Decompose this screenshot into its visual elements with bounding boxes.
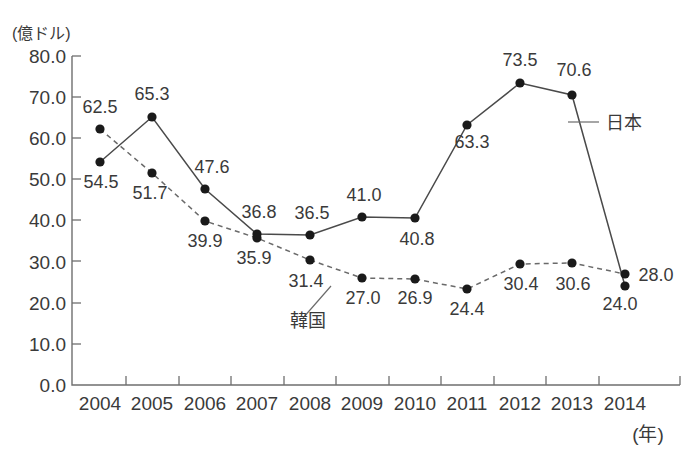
japan-label-2011: 63.3 xyxy=(454,132,489,152)
x-tick-2012: 2012 xyxy=(499,393,541,414)
x-axis-tick-labels: 2004 2005 2006 2007 2008 2009 2010 2011 … xyxy=(79,393,647,414)
chart-canvas: (億ドル) 80.0 70.0 60.0 50.0 40.0 30.0 20.0… xyxy=(0,0,692,455)
japan-label-2006: 47.6 xyxy=(194,157,229,177)
line-chart: (億ドル) 80.0 70.0 60.0 50.0 40.0 30.0 20.0… xyxy=(0,0,692,455)
x-axis-ticks xyxy=(126,376,680,385)
japan-label-2009: 41.0 xyxy=(346,185,381,205)
x-tick-2005: 2005 xyxy=(131,393,173,414)
x-tick-2013: 2013 xyxy=(551,393,593,414)
y-tick-10: 10.0 xyxy=(29,334,66,355)
y-axis-ticks xyxy=(72,56,81,344)
japan-label-2012: 73.5 xyxy=(502,50,537,70)
japan-label-2013: 70.6 xyxy=(556,60,591,80)
x-tick-2004: 2004 xyxy=(79,393,122,414)
japan-series-annotation: 日本 xyxy=(606,113,642,133)
y-axis-unit-label: (億ドル) xyxy=(12,25,71,42)
x-tick-2009: 2009 xyxy=(341,393,383,414)
x-tick-2007: 2007 xyxy=(236,393,278,414)
japan-label-2007: 36.8 xyxy=(241,202,276,222)
korea-label-2009: 27.0 xyxy=(345,288,380,308)
x-axis-unit-label: (年) xyxy=(632,424,664,445)
y-tick-30: 30.0 xyxy=(29,252,66,273)
korea-label-2008: 31.4 xyxy=(288,271,323,291)
japan-label-2008: 36.5 xyxy=(294,203,329,223)
y-tick-80: 80.0 xyxy=(29,46,66,67)
korea-value-labels: 62.5 51.7 39.9 35.9 31.4 27.0 26.9 24.4 … xyxy=(82,97,673,319)
korea-label-2011: 24.4 xyxy=(449,299,484,319)
x-tick-2014: 2014 xyxy=(604,393,647,414)
japan-label-2014: 24.0 xyxy=(602,294,637,314)
japan-label-2005: 65.3 xyxy=(134,84,169,104)
korea-label-2005: 51.7 xyxy=(132,183,167,203)
y-tick-50: 50.0 xyxy=(29,169,66,190)
y-tick-70: 70.0 xyxy=(29,87,66,108)
korea-label-2012: 30.4 xyxy=(503,274,538,294)
x-tick-2008: 2008 xyxy=(289,393,331,414)
korea-label-2006: 39.9 xyxy=(187,231,222,251)
y-tick-0: 0.0 xyxy=(40,375,66,396)
x-tick-2010: 2010 xyxy=(394,393,436,414)
korea-label-2014: 28.0 xyxy=(638,265,673,285)
y-axis-tick-labels: 80.0 70.0 60.0 50.0 40.0 30.0 20.0 10.0 … xyxy=(29,46,66,396)
korea-label-2007: 35.9 xyxy=(236,248,271,268)
x-tick-2006: 2006 xyxy=(184,393,226,414)
korea-label-2013: 30.6 xyxy=(555,274,590,294)
japan-label-2004: 54.5 xyxy=(83,172,118,192)
korea-label-2004: 62.5 xyxy=(82,97,117,117)
korea-label-2010: 26.9 xyxy=(397,288,432,308)
x-tick-2011: 2011 xyxy=(447,393,488,414)
korea-series-annotation: 韓国 xyxy=(290,311,326,331)
japan-label-2010: 40.8 xyxy=(399,229,434,249)
axis-lines xyxy=(72,56,680,385)
y-tick-60: 60.0 xyxy=(29,128,66,149)
y-tick-40: 40.0 xyxy=(29,210,66,231)
y-tick-20: 20.0 xyxy=(29,293,66,314)
